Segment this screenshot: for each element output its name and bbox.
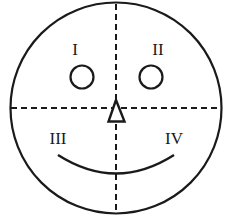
quadrant-label-iv: IV	[165, 129, 184, 148]
quadrant-label-ii: II	[152, 40, 164, 59]
left-eye-circle	[71, 66, 94, 89]
right-eye-circle	[140, 66, 163, 89]
nose-triangle	[109, 100, 125, 122]
quadrant-label-i: I	[72, 40, 78, 59]
quadrant-label-iii: III	[50, 129, 67, 148]
smiley-quadrant-diagram: I II III IV	[0, 0, 225, 220]
